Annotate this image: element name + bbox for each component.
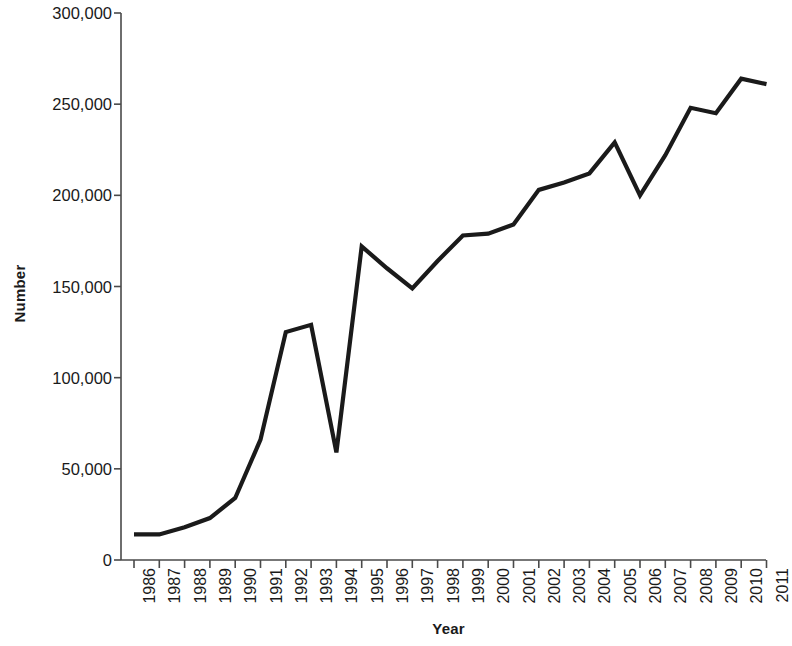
axis-ticks [114, 13, 767, 568]
data-series-line [134, 79, 767, 535]
x-axis-title: Year [121, 620, 776, 637]
x-axis-tick-label: 2011 [774, 568, 792, 628]
axes [121, 13, 766, 560]
